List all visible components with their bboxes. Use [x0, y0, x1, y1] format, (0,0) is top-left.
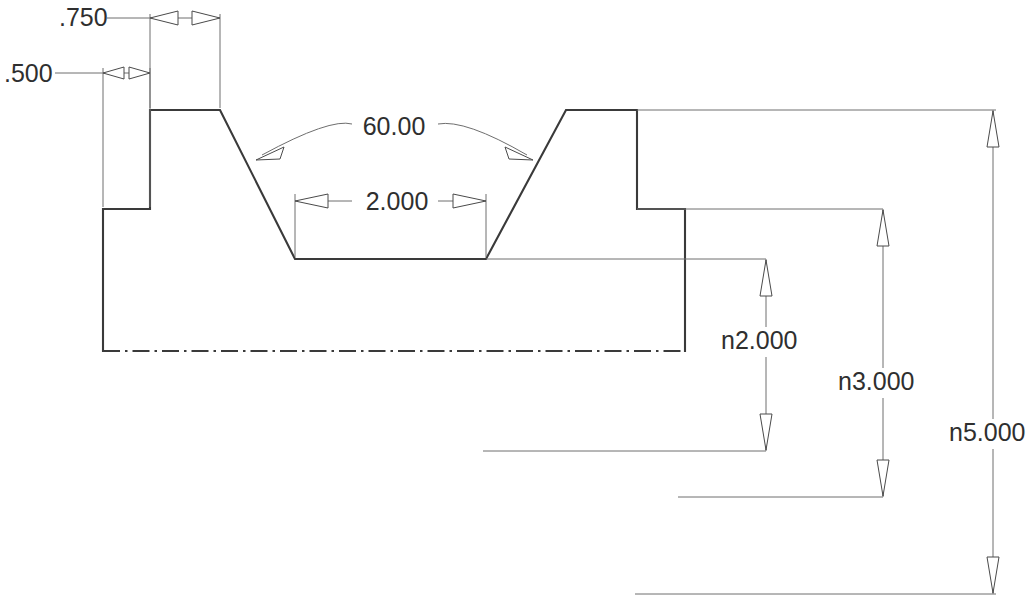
- arrow-750-right: [192, 11, 220, 25]
- arrow-angle-60-right: [505, 147, 533, 160]
- arrow-n5000-top: [987, 111, 999, 147]
- angular-dim-arc-left: [262, 123, 352, 155]
- dimension-label-angle-60: 60.00: [363, 112, 426, 140]
- dimension-n5000-group: n5.000: [635, 110, 1025, 594]
- arrow-n5000-bottom: [987, 557, 999, 593]
- cad-drawing-svg: .750 .500 60.00 2.000: [0, 0, 1035, 604]
- dimension-label-500: .500: [4, 59, 53, 87]
- arrow-500-right: [129, 67, 150, 79]
- dimension-500-group: .500: [4, 59, 150, 207]
- arrow-n3000-top: [877, 210, 889, 246]
- arrow-750-left: [150, 11, 178, 25]
- arrow-2000-right: [453, 194, 486, 208]
- part-outline-path: [103, 110, 685, 351]
- arrow-n2000-bottom: [760, 414, 772, 450]
- arrow-500-left: [103, 67, 124, 79]
- arrow-angle-60-left: [256, 147, 284, 160]
- dimension-n2000-group: n2.000: [483, 259, 797, 451]
- arrow-n2000-top: [760, 260, 772, 296]
- dimension-label-n2000: n2.000: [721, 326, 797, 354]
- dimension-2000-group: 2.000: [295, 187, 486, 257]
- arrow-n3000-bottom: [877, 460, 889, 496]
- dimension-label-n5000: n5.000: [949, 418, 1025, 446]
- dimension-750-group: .750: [59, 3, 220, 108]
- angular-dim-arc-right: [438, 123, 527, 155]
- dimension-label-2000: 2.000: [366, 187, 429, 215]
- dimension-label-750: .750: [59, 3, 108, 31]
- part-outline-group: [103, 110, 685, 351]
- dimension-label-n3000: n3.000: [838, 367, 914, 395]
- arrow-2000-left: [295, 194, 328, 208]
- dimension-angle-60-group: 60.00: [256, 112, 533, 160]
- technical-drawing-canvas: .750 .500 60.00 2.000: [0, 0, 1035, 604]
